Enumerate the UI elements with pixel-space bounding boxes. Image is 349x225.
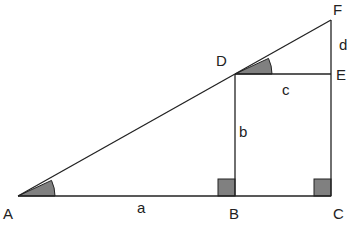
label-f-point: F [333, 1, 342, 18]
angle-marker-d [235, 58, 272, 74]
right-angle-b [218, 179, 235, 196]
label-d-point: D [216, 52, 227, 69]
label-c-point: C [333, 205, 344, 222]
angle-marker-a [18, 180, 55, 196]
geometry-diagram: A B C D E F a b c d [0, 0, 349, 225]
label-a-point: A [3, 205, 13, 222]
label-e-point: E [336, 66, 346, 83]
label-b-point: B [229, 205, 239, 222]
label-segment-a: a [137, 199, 146, 216]
hypotenuse-af [18, 20, 331, 196]
right-angle-c [314, 179, 331, 196]
label-segment-b: b [239, 123, 247, 140]
label-segment-c: c [282, 81, 290, 98]
label-segment-d: d [339, 36, 347, 53]
